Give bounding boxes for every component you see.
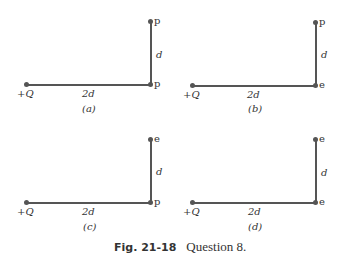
figure-number: Fig. 21-18 [114, 241, 176, 254]
corner-particle-label: e [319, 197, 325, 207]
top-particle-dot [313, 137, 318, 142]
panel-d: +Q 2d d e e (d) [0, 0, 354, 259]
figure-caption: Fig. 21-18Question 8. [114, 239, 246, 255]
caption-text: Question 8. [186, 239, 246, 254]
horizontal-distance-label: 2d [248, 207, 261, 217]
horizontal-line [192, 202, 316, 204]
charge-label: +Q [183, 207, 200, 217]
panel-label: (d) [248, 222, 262, 232]
charge-dot [190, 200, 195, 205]
vertical-line [315, 139, 317, 203]
corner-particle-dot [313, 200, 318, 205]
top-particle-label: e [319, 134, 325, 144]
vertical-distance-label: d [321, 168, 327, 178]
